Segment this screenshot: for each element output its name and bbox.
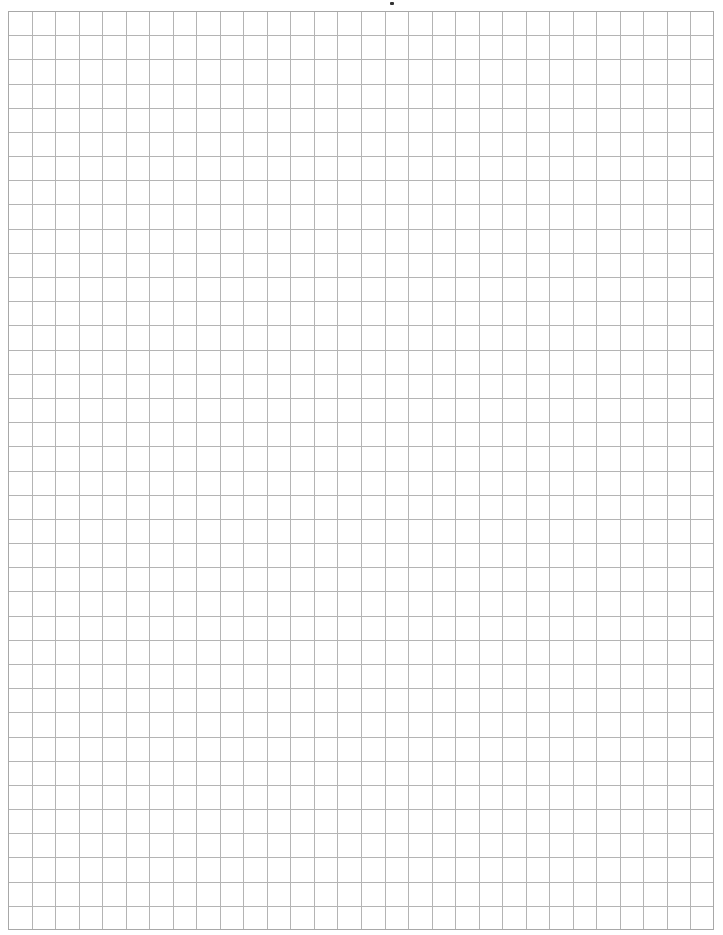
ink-speck xyxy=(390,2,394,5)
grid-lines xyxy=(8,11,714,930)
graph-grid xyxy=(8,11,714,930)
graph-paper-page xyxy=(0,0,723,935)
